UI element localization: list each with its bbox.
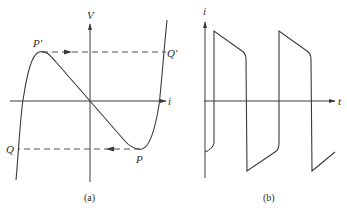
figure-a: V i P′ Q′ P Q (a) bbox=[6, 9, 178, 204]
arrow-right-icon bbox=[64, 50, 72, 55]
figure-b: i t (b) bbox=[203, 5, 342, 204]
point-q-prime-label: Q′ bbox=[167, 47, 178, 59]
point-p-prime-label: P′ bbox=[32, 37, 43, 49]
figure-canvas: V i P′ Q′ P Q (a) i t (b) bbox=[0, 0, 347, 212]
caption-a: (a) bbox=[84, 192, 95, 204]
caption-b: (b) bbox=[263, 192, 275, 204]
v-axis-label: V bbox=[87, 9, 95, 21]
i-axis-label: i bbox=[168, 95, 171, 107]
t-axis-label: t bbox=[338, 95, 342, 107]
point-q-label: Q bbox=[6, 143, 14, 155]
current-axis-label: i bbox=[203, 5, 206, 17]
point-p-label: P bbox=[135, 153, 143, 165]
arrow-left-icon bbox=[106, 147, 114, 152]
